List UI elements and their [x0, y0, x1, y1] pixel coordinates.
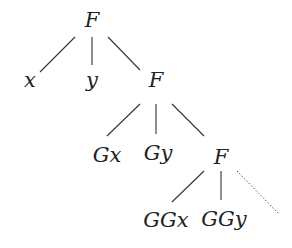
tree-edge-n3-n4	[107, 104, 140, 136]
tree-node-n0: F	[85, 10, 100, 31]
tree-node-n3: F	[149, 70, 164, 91]
tree-node-n2: y	[86, 70, 98, 91]
tree-edge-n6-n7	[172, 171, 204, 202]
tree-node-n5: Gy	[144, 143, 173, 164]
tree-edge-n0-n1	[40, 37, 75, 72]
tree-node-n6: F	[214, 147, 229, 168]
tree-node-n8: GGy	[201, 209, 246, 230]
tree-edge-n0-n3	[108, 37, 140, 70]
tree-node-n1: x	[24, 70, 36, 91]
tree-node-n7: GGx	[143, 210, 188, 231]
tree-node-n4: Gx	[93, 145, 122, 166]
tree-edge-n3-n6	[172, 104, 204, 136]
